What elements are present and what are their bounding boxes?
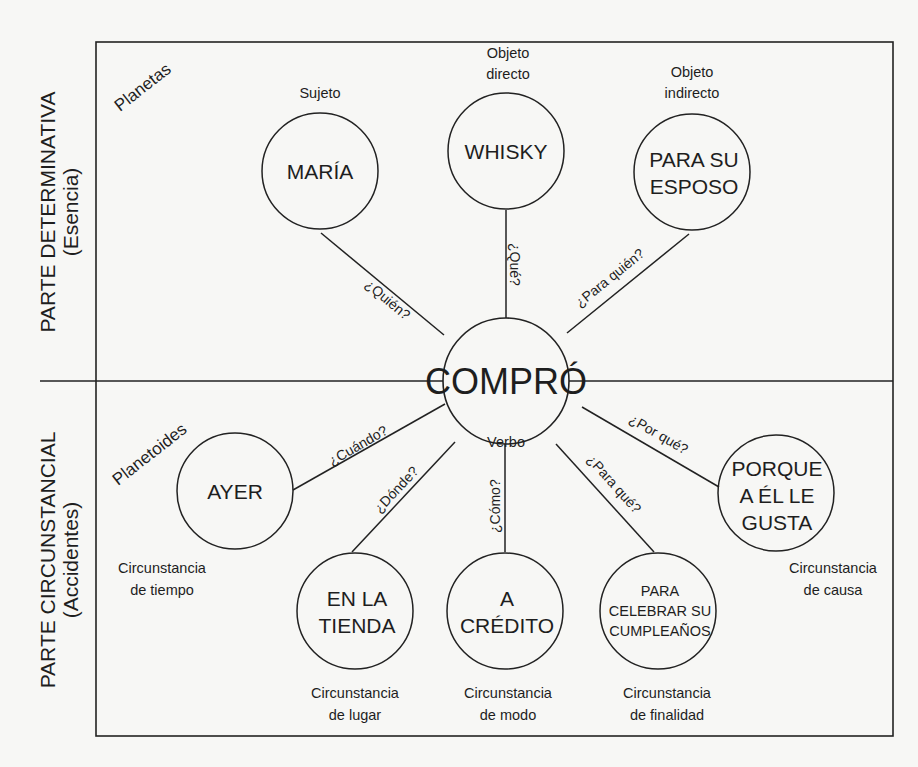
caption-modo-1: Circunstancia [464,685,553,701]
svg-text:TIENDA: TIENDA [318,614,395,637]
question-donde: ¿Dónde? [370,463,421,516]
connector-celebrar [556,444,654,552]
node-esposo: PARA SU ESPOSO Objeto indirecto [634,64,750,230]
node-credito: A CRÉDITO Circunstancia de modo [447,553,563,723]
svg-text:MARÍA: MARÍA [287,160,354,183]
svg-text:CRÉDITO: CRÉDITO [460,614,554,637]
verb-caption: Verbo [487,434,525,450]
group-label-planetas: Planetas [111,59,175,115]
svg-text:A ÉL LE: A ÉL LE [739,484,814,507]
svg-text:PARTE CIRCUNSTANCIAL: PARTE CIRCUNSTANCIAL [36,432,59,689]
node-maria: MARÍA Sujeto [262,85,378,229]
svg-text:GUSTA: GUSTA [742,511,813,534]
caption-lugar-1: Circunstancia [311,685,400,701]
svg-text:PARTE DETERMINATIVA: PARTE DETERMINATIVA [36,91,59,332]
caption-modo-2: de modo [480,707,536,723]
caption-causa-1: Circunstancia [789,560,878,576]
node-tienda: EN LA TIENDA Circunstancia de lugar [297,553,413,723]
svg-text:PORQUE: PORQUE [731,457,822,480]
question-como: ¿Cómo? [487,479,503,533]
caption-finalidad-1: Circunstancia [623,685,712,701]
svg-text:PARA SU: PARA SU [649,148,738,171]
svg-text:AYER: AYER [207,480,263,503]
caption-causa-2: de causa [804,582,864,598]
svg-text:A: A [500,587,514,610]
svg-text:CUMPLEAÑOS: CUMPLEAÑOS [609,623,711,639]
node-celebrar: PARA CELEBRAR SU CUMPLEAÑOS Circunstanci… [600,553,716,723]
question-cuando: ¿Cuándo? [326,422,391,469]
node-compro: COMPRÓ Verbo [425,318,587,450]
caption-objeto-indirecto-1: Objeto [671,64,714,80]
svg-text:WHISKY: WHISKY [465,140,548,163]
svg-text:ESPOSO: ESPOSO [650,175,739,198]
question-que: ¿Qué? [507,243,523,286]
connector-esposo [567,234,689,333]
caption-tiempo-2: de tiempo [130,582,194,598]
caption-objeto-directo-2: directo [486,66,530,82]
question-por-que: ¿Por qué? [627,411,692,458]
question-quien: ¿Quién? [362,276,414,323]
side-label-determinativa: PARTE DETERMINATIVA (Esencia) [36,91,82,332]
svg-text:PARA: PARA [641,583,680,599]
caption-finalidad-2: de finalidad [630,707,704,723]
caption-tiempo-1: Circunstancia [118,560,207,576]
caption-objeto-directo-1: Objeto [487,45,530,61]
caption-lugar-2: de lugar [329,707,382,723]
verb-label: COMPRÓ [425,361,587,402]
side-label-circunstancial: PARTE CIRCUNSTANCIAL (Accidentes) [36,432,82,689]
caption-sujeto: Sujeto [299,85,340,101]
caption-objeto-indirecto-2: indirecto [665,85,720,101]
svg-text:(Accidentes): (Accidentes) [59,502,82,619]
connector-tienda [352,442,455,552]
svg-text:EN LA: EN LA [327,587,388,610]
svg-text:(Esencia): (Esencia) [59,168,82,257]
node-whisky: WHISKY Objeto directo [448,45,564,209]
svg-text:CELEBRAR SU: CELEBRAR SU [609,603,711,619]
sentence-structure-diagram: PARTE DETERMINATIVA (Esencia) PARTE CIRC… [0,0,918,767]
node-porque: PORQUE A ÉL LE GUSTA Circunstancia de ca… [718,435,878,598]
